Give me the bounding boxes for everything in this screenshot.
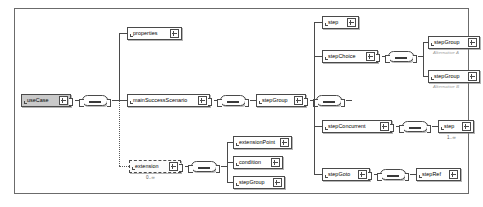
expand-plus-icon[interactable]: [198, 96, 207, 105]
type-stub: [208, 98, 212, 106]
node-use-case[interactable]: useCase: [21, 94, 71, 107]
compositor-cap-left: [385, 55, 390, 63]
cardinality-extension: 0..∞: [146, 175, 155, 180]
compositor-step-group-sequence[interactable]: [316, 95, 342, 106]
expand-plus-icon[interactable]: [358, 170, 367, 179]
connector-bus-stepchoice: [314, 56, 322, 57]
child-marker-icon: [130, 101, 133, 104]
connector-bus-stepgoto: [314, 174, 322, 175]
node-step-group-main[interactable]: stepGroup: [256, 94, 306, 107]
node-extension[interactable]: extension: [129, 160, 181, 173]
node-label-condition: condition: [234, 160, 271, 165]
cardinality-concurrent-step: 1..∞: [447, 135, 456, 140]
expand-plus-icon[interactable]: [170, 29, 179, 38]
connector-sgseq-bus: [346, 100, 352, 101]
node-concurrent-step[interactable]: step: [438, 120, 474, 133]
node-step[interactable]: step: [322, 16, 359, 29]
expand-plus-icon[interactable]: [347, 18, 356, 27]
expand-plus-icon[interactable]: [366, 52, 375, 61]
child-marker-icon: [130, 34, 133, 37]
branch-bus-lower-dotted: [119, 100, 120, 166]
compositor-cap-left: [399, 125, 404, 133]
expand-plus-icon[interactable]: [462, 122, 471, 131]
type-stub: [390, 124, 394, 132]
child-marker-icon: [431, 43, 434, 46]
connector-bus-stepconcurrent: [314, 126, 322, 127]
connector-bus-extension: [119, 166, 129, 167]
compositor-cap-right: [107, 99, 112, 107]
node-step-ref[interactable]: stepRef: [416, 168, 461, 181]
child-marker-icon: [441, 127, 444, 130]
child-marker-icon: [24, 101, 27, 104]
node-label-step-group-main: stepGroup: [257, 98, 294, 103]
expand-plus-icon[interactable]: [273, 178, 282, 187]
xsd-diagram-canvas: useCase properties mainSuccessScenario: [0, 0, 483, 207]
compositor-main-sequence[interactable]: [220, 95, 246, 106]
compositor-cap-right: [245, 99, 250, 107]
child-marker-icon: [325, 175, 328, 178]
compositor-extension-sequence[interactable]: [191, 161, 217, 172]
type-stub: [368, 172, 372, 180]
node-label-step-concurrent: stepConcurrent: [323, 124, 380, 129]
node-label-use-case: useCase: [22, 98, 59, 103]
compositor-cap-left: [79, 99, 84, 107]
compositor-cap-right: [413, 55, 418, 63]
node-step-concurrent[interactable]: stepConcurrent: [322, 120, 392, 133]
compositor-cap-right: [427, 125, 432, 133]
type-stub: [376, 54, 380, 62]
expand-plus-icon[interactable]: [169, 162, 178, 171]
node-label-step-group-alternative-b: stepGroup: [429, 74, 468, 79]
node-extension-step-group[interactable]: stepGroup: [233, 176, 285, 189]
annotation-alternative-b: Alternative B: [433, 84, 459, 89]
child-marker-icon: [325, 23, 328, 26]
type-stub: [304, 98, 308, 106]
node-step-group-alternative-a[interactable]: stepGroup: [428, 36, 480, 49]
sequence-compositor-icon: [89, 101, 101, 103]
expand-plus-icon[interactable]: [468, 72, 477, 81]
child-marker-icon: [236, 163, 239, 166]
compositor-goto-sequence[interactable]: [380, 169, 406, 180]
expand-plus-icon[interactable]: [280, 138, 289, 147]
sequence-compositor-icon: [387, 175, 399, 177]
sequence-compositor-icon: [323, 101, 335, 103]
branch-bus-upper: [119, 33, 120, 101]
child-marker-icon: [259, 101, 262, 104]
node-label-extension: extension: [130, 164, 169, 169]
type-stub: [69, 98, 73, 106]
sequence-compositor-icon: [198, 167, 210, 169]
sequence-compositor-icon: [227, 101, 239, 103]
node-properties[interactable]: properties: [127, 27, 182, 40]
expand-plus-icon[interactable]: [271, 158, 280, 167]
node-label-extension-step-group: stepGroup: [234, 180, 273, 185]
node-label-step-goto: stepGoto: [323, 172, 358, 177]
node-step-group-alternative-b[interactable]: stepGroup: [428, 70, 480, 83]
choice-alternatives-bus: [423, 42, 424, 76]
expand-plus-icon[interactable]: [449, 170, 458, 179]
node-step-choice[interactable]: stepChoice: [322, 50, 378, 63]
child-marker-icon: [236, 143, 239, 146]
compositor-cap-left: [217, 99, 222, 107]
step-kinds-bus: [314, 22, 315, 174]
node-label-main-success-scenario: mainSuccessScenario: [128, 98, 198, 103]
node-step-goto[interactable]: stepGoto: [322, 168, 370, 181]
expand-plus-icon[interactable]: [468, 38, 477, 47]
compositor-use-case-sequence[interactable]: [82, 95, 108, 106]
child-marker-icon: [419, 175, 422, 178]
compositor-concurrent-sequence[interactable]: [402, 121, 428, 132]
expand-plus-icon[interactable]: [59, 96, 68, 105]
expand-plus-icon[interactable]: [380, 122, 389, 131]
node-extension-point[interactable]: extensionPoint: [233, 136, 292, 149]
node-condition[interactable]: condition: [233, 156, 283, 169]
sequence-compositor-icon: [395, 57, 407, 59]
child-marker-icon: [431, 77, 434, 80]
compositor-cap-right: [216, 165, 221, 173]
child-marker-icon: [236, 183, 239, 186]
expand-plus-icon[interactable]: [294, 96, 303, 105]
connector-bus-main: [119, 100, 127, 101]
compositor-step-choice[interactable]: [388, 51, 414, 62]
node-main-success-scenario[interactable]: mainSuccessScenario: [127, 94, 210, 107]
connector-seq-bus: [112, 100, 119, 101]
annotation-alternative-a: Alternative A: [433, 50, 459, 55]
compositor-cap-left: [377, 173, 382, 181]
child-marker-icon: [325, 127, 328, 130]
